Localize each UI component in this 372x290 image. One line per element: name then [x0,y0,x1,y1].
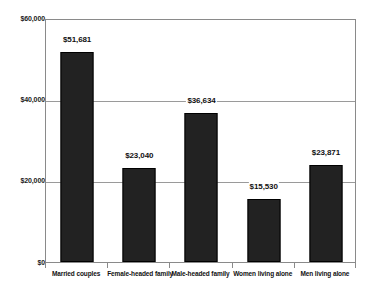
y-tick-label-40000: $40,000 [5,96,45,104]
bar-women-living-alone[interactable] [247,199,280,262]
bar-value-1: $23,040 [124,151,154,160]
bar-value-2: $36,634 [186,96,216,105]
bar-value-0: $51,681 [62,35,92,44]
x-tick-mark-3 [232,263,233,268]
cropped-header-remnant [0,0,372,7]
bar-male-headed-family[interactable] [185,113,218,262]
x-tick-mark-2 [169,263,170,268]
y-tick-label-60000: $60,000 [5,15,45,23]
bar-female-headed-family[interactable] [123,168,156,262]
x-tick-label-women-living-alone: Women living alone [232,270,294,278]
bar-slot-3: $15,530 [233,20,295,262]
bar-men-living-alone[interactable] [309,165,342,262]
bar-slot-1: $23,040 [108,20,170,262]
plot-area: $51,681 $23,040 $36,634 $15,530 $23,871 [45,19,356,263]
bar-slot-2: $36,634 [170,20,232,262]
x-tick-mark-0 [45,263,46,268]
x-tick-label-married-couples: Married couples [45,270,107,278]
bar-slot-0: $51,681 [46,20,108,262]
x-tick-label-male-headed-family: Male-headed family [169,270,231,278]
bar-married-couples[interactable] [61,52,94,262]
x-tick-mark-4 [294,263,295,268]
y-tick-label-0: $0 [5,259,45,267]
x-axis: Married couples Female-headed family Mal… [45,263,356,290]
x-tick-label-men-living-alone: Men living alone [294,270,356,278]
x-tick-mark-1 [107,263,108,268]
x-tick-mark-5 [355,263,356,268]
chart-screenshot: $60,000 $40,000 $20,000 $0 $51,681 $23,0… [0,0,372,290]
x-tick-label-female-headed-family: Female-headed family [107,270,169,278]
bar-slot-4: $23,871 [295,20,357,262]
bar-value-4: $23,871 [311,148,341,157]
y-tick-label-20000: $20,000 [5,177,45,185]
y-axis: $60,000 $40,000 $20,000 $0 [0,0,45,290]
bar-value-3: $15,530 [249,182,279,191]
